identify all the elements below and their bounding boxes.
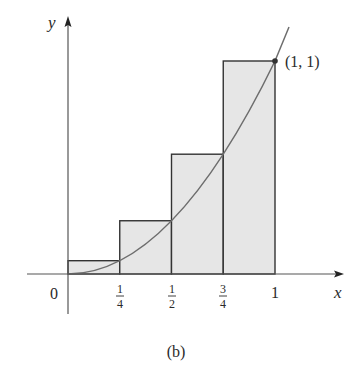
rectangle-1 xyxy=(68,261,120,274)
riemann-sum-diagram: y x 0 (1, 1) 1 4 1 2 3 4 1 (b) xyxy=(0,0,352,371)
tick-half-numerator: 1 xyxy=(169,282,175,296)
point-label: (1, 1) xyxy=(285,53,320,71)
y-axis-label: y xyxy=(46,13,56,32)
tick-three-quarters-denominator: 4 xyxy=(220,297,226,311)
figure-caption: (b) xyxy=(167,343,186,361)
point-marker xyxy=(272,58,278,64)
rectangle-3 xyxy=(172,154,224,274)
tick-quarter-denominator: 4 xyxy=(117,297,123,311)
x-axis-label: x xyxy=(333,283,342,302)
tick-three-quarters: 3 4 xyxy=(219,282,227,311)
tick-three-quarters-numerator: 3 xyxy=(220,282,226,296)
riemann-rectangles xyxy=(68,61,275,274)
tick-one: 1 xyxy=(271,284,279,301)
tick-half-denominator: 2 xyxy=(169,297,175,311)
tick-half: 1 2 xyxy=(168,282,176,311)
rectangle-4 xyxy=(223,61,275,274)
tick-quarter: 1 4 xyxy=(116,282,124,311)
origin-label: 0 xyxy=(50,285,58,302)
tick-quarter-numerator: 1 xyxy=(117,282,123,296)
